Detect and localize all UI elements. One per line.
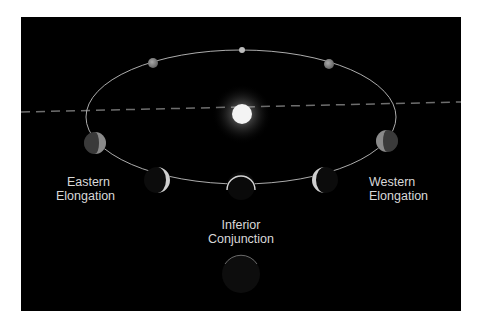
orbit-diagram — [0, 0, 480, 327]
label-line: Eastern — [56, 175, 110, 189]
planet-gibbous-right — [324, 59, 334, 69]
inferior-conjunction-label: Inferior Conjunction — [205, 218, 277, 246]
label-line: Western — [369, 175, 428, 189]
sun-icon — [232, 104, 252, 124]
planet-half-right — [376, 130, 398, 152]
planet-half-left — [84, 132, 106, 154]
planet-superior-conjunction — [239, 47, 245, 53]
planet-western-elongation — [312, 167, 338, 193]
label-line: Elongation — [369, 189, 428, 203]
planet-gibbous-left — [148, 58, 158, 68]
label-line: Conjunction — [205, 232, 277, 246]
label-line: Elongation — [56, 189, 110, 203]
planet-eastern-elongation — [144, 167, 170, 193]
planet-near-inferior — [227, 172, 255, 200]
planet-inferior-conjunction — [222, 255, 260, 293]
label-line: Inferior — [205, 218, 277, 232]
western-elongation-label: Western Elongation — [369, 175, 428, 203]
eastern-elongation-label: Eastern Elongation — [56, 175, 110, 203]
